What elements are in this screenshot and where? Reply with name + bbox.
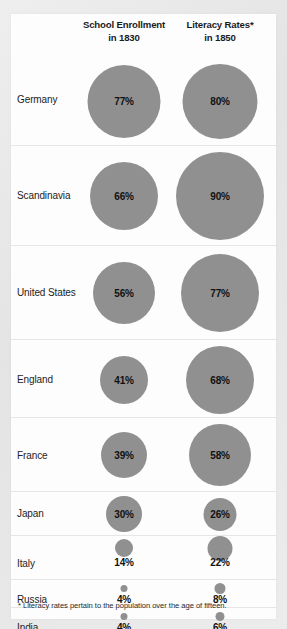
bubble-wrapper: 90% (176, 152, 264, 240)
bubble-enrollment: 30% (106, 496, 142, 532)
row-label-germany: Germany (17, 94, 81, 105)
cell-enrollment: 56% (76, 246, 172, 339)
bubble-wrapper: 80% (183, 64, 258, 139)
table-row: United States56%77% (11, 246, 276, 340)
cell-enrollment: 77% (76, 56, 172, 145)
bubble-wrapper: 26% (204, 498, 237, 531)
bubble-enrollment (115, 539, 133, 557)
page-background: School Enrollment in 1830 Literacy Rates… (0, 0, 287, 629)
value-label-literacy: 6% (213, 622, 227, 629)
bubble-wrapper (121, 613, 128, 620)
cell-literacy: 90% (172, 146, 268, 245)
row-label-japan: Japan (17, 508, 81, 519)
value-label-enrollment: 77% (114, 96, 133, 107)
bubble-literacy: 77% (181, 254, 259, 332)
bubble-literacy: 90% (176, 152, 264, 240)
bubble-enrollment (121, 613, 128, 620)
row-label-scandinavia: Scandinavia (17, 190, 81, 201)
table-row: Italy14%22% (11, 536, 276, 580)
bubble-wrapper: 58% (189, 424, 251, 486)
bubble-literacy (216, 612, 225, 621)
value-label-enrollment: 14% (114, 557, 133, 568)
value-label-literacy: 26% (210, 509, 229, 520)
column-header-enrollment-line1: School Enrollment (83, 19, 165, 30)
bubble-wrapper (215, 583, 226, 594)
bubble-wrapper: 41% (100, 356, 148, 404)
value-label-enrollment: 30% (114, 509, 133, 520)
bubble-enrollment: 41% (100, 356, 148, 404)
table-row: England41%68% (11, 340, 276, 418)
value-label-enrollment: 4% (117, 622, 131, 629)
row-label-france: France (17, 450, 81, 461)
cell-literacy: 68% (172, 340, 268, 417)
value-label-literacy: 77% (210, 288, 229, 299)
chart-rows: Germany77%80%Scandinavia66%90%United Sta… (11, 56, 276, 629)
bubble-wrapper: 39% (101, 432, 147, 478)
bubble-enrollment: 66% (90, 162, 158, 230)
cell-literacy: 26% (172, 492, 268, 535)
cell-literacy: 77% (172, 246, 268, 339)
bubble-wrapper: 56% (93, 262, 155, 324)
value-label-enrollment: 66% (114, 191, 133, 202)
value-label-enrollment: 56% (114, 288, 133, 299)
bubble-wrapper (115, 539, 133, 557)
cell-enrollment: 41% (76, 340, 172, 417)
column-header-enrollment: School Enrollment in 1830 (76, 19, 172, 44)
column-header-literacy-line1: Literacy Rates* (186, 19, 253, 30)
value-label-literacy: 80% (210, 96, 229, 107)
column-header-enrollment-line2: in 1830 (76, 32, 172, 45)
cell-enrollment: 4% (76, 608, 172, 629)
bubble-literacy: 80% (183, 64, 258, 139)
value-label-enrollment: 39% (114, 450, 133, 461)
bubble-literacy: 68% (186, 346, 254, 414)
row-label-united-states: United States (17, 287, 81, 298)
cell-literacy: 22% (172, 536, 268, 579)
value-label-literacy: 68% (210, 375, 229, 386)
bubble-enrollment: 77% (88, 65, 161, 138)
infographic-card: School Enrollment in 1830 Literacy Rates… (11, 14, 276, 619)
table-row: Germany77%80% (11, 56, 276, 146)
bubble-wrapper: 77% (88, 65, 161, 138)
value-label-literacy: 22% (210, 557, 229, 568)
column-header-literacy-line2: in 1850 (172, 32, 268, 45)
value-label-literacy: 58% (210, 450, 229, 461)
bubble-literacy: 58% (189, 424, 251, 486)
value-label-enrollment: 41% (114, 375, 133, 386)
cell-enrollment: 30% (76, 492, 172, 535)
bubble-wrapper (216, 612, 225, 621)
table-row: France39%58% (11, 418, 276, 492)
bubble-enrollment (121, 585, 128, 592)
value-label-literacy: 90% (210, 191, 229, 202)
cell-literacy: 80% (172, 56, 268, 145)
row-label-india: India (17, 622, 81, 629)
cell-literacy: 58% (172, 418, 268, 491)
table-row: India4%6% (11, 608, 276, 629)
bubble-wrapper: 66% (90, 162, 158, 230)
row-label-england: England (17, 374, 81, 385)
bubble-enrollment: 39% (101, 432, 147, 478)
bubble-wrapper: 68% (186, 346, 254, 414)
table-row: Scandinavia66%90% (11, 146, 276, 246)
bubble-wrapper (121, 585, 128, 592)
bubble-wrapper: 30% (106, 496, 142, 532)
bubble-wrapper: 77% (181, 254, 259, 332)
chart-header: School Enrollment in 1830 Literacy Rates… (11, 14, 276, 56)
row-label-italy: Italy (17, 558, 81, 569)
cell-literacy: 6% (172, 608, 268, 629)
chart-footnote: * Literacy rates pertain to the populati… (18, 601, 270, 611)
cell-enrollment: 39% (76, 418, 172, 491)
column-header-literacy: Literacy Rates* in 1850 (172, 19, 268, 44)
bubble-enrollment: 56% (93, 262, 155, 324)
bubble-literacy (215, 583, 226, 594)
table-row: Japan30%26% (11, 492, 276, 536)
cell-enrollment: 66% (76, 146, 172, 245)
bubble-literacy: 26% (204, 498, 237, 531)
cell-enrollment: 14% (76, 536, 172, 579)
